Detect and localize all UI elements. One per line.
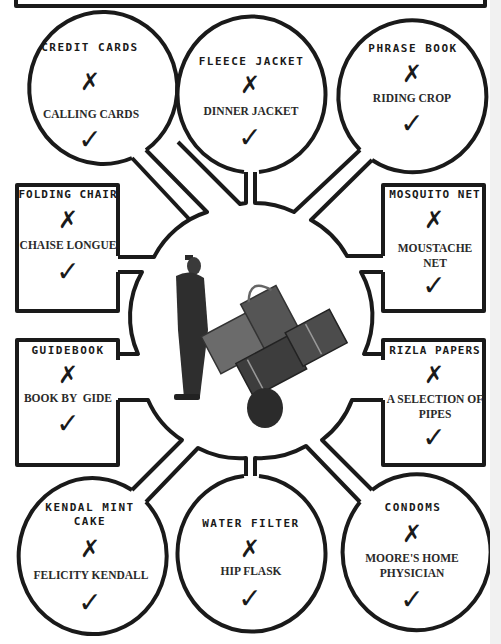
alternative-label-water-filter: HIP FLASK bbox=[200, 564, 302, 579]
alternative-line: MOUSTACHE bbox=[398, 242, 473, 254]
check-icon: ✓ bbox=[70, 126, 110, 154]
cross-icon: ✗ bbox=[230, 73, 270, 97]
check-icon: ✓ bbox=[70, 589, 110, 617]
alternative-line: PIPES bbox=[419, 408, 452, 420]
cross-icon: ✗ bbox=[70, 70, 110, 94]
alternative-line: A SELECTION OF bbox=[387, 393, 484, 405]
check-icon: ✓ bbox=[414, 272, 454, 300]
cross-icon: ✗ bbox=[230, 537, 270, 561]
item-label-fleece-jacket: FLEECE JACKET bbox=[194, 55, 309, 69]
check-icon: ✓ bbox=[230, 124, 270, 152]
alternative-label-guidebook: BOOK BY GIDE bbox=[18, 391, 118, 406]
alternative-label-fleece-jacket: DINNER JACKET bbox=[195, 104, 307, 119]
cross-icon: ✗ bbox=[70, 537, 110, 561]
alternative-line: PHYSICIAN bbox=[380, 567, 445, 579]
alternative-label-folding-chair: CHAISE LONGUE bbox=[18, 238, 118, 253]
item-label-phrase-book: PHRASE BOOK bbox=[360, 42, 466, 56]
cross-icon: ✗ bbox=[48, 363, 88, 387]
item-label-mosquito-net: MOSQUITO NET bbox=[385, 188, 485, 202]
alternative-label-condoms: MOORE'S HOMEPHYSICIAN bbox=[360, 551, 464, 581]
alternative-line: MOORE'S HOME bbox=[365, 552, 459, 564]
item-label-guidebook: GUIDEBOOK bbox=[18, 344, 118, 358]
page-edge-shadow bbox=[490, 0, 501, 644]
item-label-kendal-mint-cake: KENDAL MINTCAKE bbox=[36, 501, 144, 529]
cross-icon: ✗ bbox=[392, 522, 432, 546]
check-icon: ✓ bbox=[48, 258, 88, 286]
cross-icon: ✗ bbox=[392, 62, 432, 86]
alternative-label-mosquito-net: MOUSTACHENET bbox=[385, 241, 485, 271]
item-label-credit-cards: CREDIT CARDS bbox=[34, 41, 146, 55]
item-label-rizla-papers: RIZLA PAPERS bbox=[385, 344, 485, 358]
check-icon: ✓ bbox=[392, 586, 432, 614]
item-line: KENDAL MINT bbox=[45, 501, 134, 514]
check-icon: ✓ bbox=[48, 410, 88, 438]
check-icon: ✓ bbox=[392, 110, 432, 138]
item-label-water-filter: WATER FILTER bbox=[196, 517, 306, 531]
top-frame bbox=[16, 0, 485, 6]
alternative-label-rizla-papers: A SELECTION OFPIPES bbox=[383, 392, 487, 422]
porter-luggage-illustration bbox=[174, 255, 349, 428]
check-icon: ✓ bbox=[414, 424, 454, 452]
alternative-line: NET bbox=[423, 257, 447, 269]
item-label-folding-chair: FOLDING CHAIR bbox=[18, 188, 118, 202]
check-icon: ✓ bbox=[230, 585, 270, 613]
item-line: CAKE bbox=[74, 515, 107, 528]
item-label-condoms: CONDOMS bbox=[370, 501, 456, 515]
alternative-label-phrase-book: RIDING CROP bbox=[362, 91, 462, 106]
alternative-label-kendal-mint-cake: FELICITY KENDALL bbox=[30, 568, 152, 583]
alternative-label-credit-cards: CALLING CARDS bbox=[30, 107, 152, 122]
cross-icon: ✗ bbox=[414, 208, 454, 232]
cross-icon: ✗ bbox=[48, 208, 88, 232]
cross-icon: ✗ bbox=[414, 363, 454, 387]
